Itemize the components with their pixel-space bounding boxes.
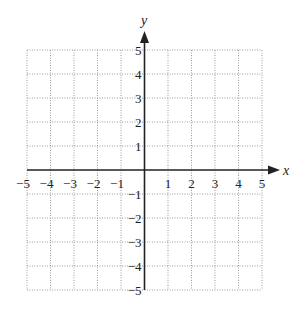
axes: x y (27, 13, 290, 290)
x-tick-label: 2 (188, 176, 195, 191)
x-tick-label: 1 (165, 176, 172, 191)
y-axis-label: y (139, 13, 148, 28)
y-tick-label: −1 (128, 187, 142, 202)
y-tick-label: −2 (128, 211, 142, 226)
x-tick-label: −2 (87, 176, 101, 191)
y-tick-label: −3 (128, 235, 142, 250)
x-tick-label: −5 (16, 176, 30, 191)
y-tick-label: −4 (128, 259, 142, 274)
y-tick-label: 4 (135, 67, 142, 82)
y-axis-arrow-icon (140, 31, 149, 43)
x-tick-label: −1 (110, 176, 124, 191)
y-tick-label: 3 (135, 91, 142, 106)
y-tick-label: −5 (128, 283, 142, 298)
y-tick-label: 5 (135, 43, 142, 58)
y-tick-label: 1 (135, 139, 142, 154)
coordinate-plane: x y −5−4−3−2−112345 54321−1−2−3−4−5 (0, 0, 297, 314)
x-tick-label: 4 (235, 176, 242, 191)
x-axis-arrow-icon (268, 166, 280, 175)
x-tick-label: 3 (212, 176, 219, 191)
y-tick-label: 2 (135, 115, 142, 130)
x-tick-label: −3 (63, 176, 77, 191)
x-axis-label: x (282, 163, 290, 178)
x-tick-label: −4 (40, 176, 54, 191)
x-tick-label: 5 (259, 176, 266, 191)
